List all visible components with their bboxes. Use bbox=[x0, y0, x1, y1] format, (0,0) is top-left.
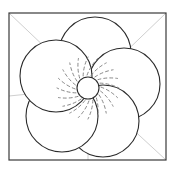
flower-center bbox=[77, 77, 99, 99]
drawing-canvas: Flower Line Drawing bbox=[0, 0, 176, 172]
petal-left bbox=[20, 40, 92, 112]
flower-illustration bbox=[0, 0, 176, 172]
